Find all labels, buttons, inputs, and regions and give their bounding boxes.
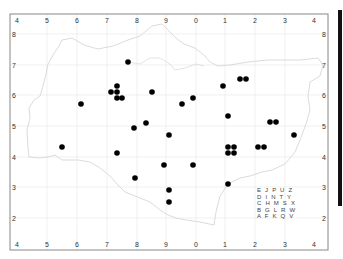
x-tick-label: 8 (135, 241, 139, 248)
x-tick-label: 4 (15, 17, 19, 24)
y-tick-label: 3 (12, 184, 16, 191)
record-dots (59, 59, 297, 205)
record-dot (78, 101, 84, 107)
x-tick-label: 2 (253, 241, 257, 248)
y-tick-label: 3 (322, 184, 326, 191)
record-dot (190, 162, 196, 168)
x-tick-label: 4 (312, 241, 316, 248)
y-tick-label: 6 (12, 92, 16, 99)
record-dot (255, 144, 261, 150)
record-dot (108, 89, 114, 95)
y-tick-label: 4 (12, 154, 16, 161)
y-tick-label: 8 (322, 31, 326, 38)
x-tick-label: 9 (164, 17, 168, 24)
record-dot (243, 76, 249, 82)
legend-row: A F K Q V (257, 213, 294, 219)
y-tick-label: 7 (322, 62, 326, 69)
record-dot (166, 199, 172, 205)
scroll-edge-bar (338, 10, 342, 206)
record-dot (161, 162, 167, 168)
record-dot (179, 101, 185, 107)
record-dot (131, 125, 137, 131)
x-tick-label: 1 (223, 17, 227, 24)
x-tick-label: 4 (15, 241, 19, 248)
x-axis-bottom: 45678901234 (15, 241, 316, 248)
x-tick-label: 7 (105, 17, 109, 24)
legend-row: E J P U Z (257, 187, 293, 193)
x-tick-label: 8 (135, 17, 139, 24)
x-tick-label: 5 (45, 241, 49, 248)
record-dot (149, 89, 155, 95)
record-dot (114, 95, 120, 101)
record-dot (291, 132, 297, 138)
x-tick-label: 1 (223, 241, 227, 248)
record-dot (125, 59, 131, 65)
record-dot (273, 119, 279, 125)
record-dot (166, 132, 172, 138)
tetrad-legend: E J P U ZD I N T YC H M S XB G L R WA F … (257, 187, 296, 219)
x-tick-label: 6 (75, 241, 79, 248)
record-dot (231, 150, 237, 156)
x-tick-label: 3 (283, 241, 287, 248)
y-axis-left: 8765432 (12, 31, 16, 222)
x-tick-label: 0 (194, 17, 198, 24)
record-dot (114, 150, 120, 156)
y-tick-label: 2 (322, 215, 326, 222)
record-dot (114, 83, 120, 89)
record-dot (190, 95, 196, 101)
record-dot (132, 175, 138, 181)
legend-row: B G L R W (257, 207, 296, 213)
y-tick-label: 2 (12, 215, 16, 222)
y-tick-label: 7 (12, 62, 16, 69)
x-tick-label: 3 (283, 17, 287, 24)
record-dot (220, 83, 226, 89)
y-tick-label: 5 (322, 123, 326, 130)
y-axis-right: 8765432 (322, 31, 326, 222)
record-dot (267, 119, 273, 125)
x-tick-label: 0 (194, 241, 198, 248)
distribution-map: 45678901234 45678901234 8765432 8765432 … (0, 0, 343, 259)
record-dot (119, 95, 125, 101)
x-tick-label: 4 (312, 17, 316, 24)
y-tick-label: 8 (12, 31, 16, 38)
record-dot (231, 144, 237, 150)
y-tick-label: 6 (322, 92, 326, 99)
record-dot (225, 144, 231, 150)
record-dot (237, 76, 243, 82)
record-dot (225, 181, 231, 187)
x-tick-label: 5 (45, 17, 49, 24)
y-tick-label: 5 (12, 123, 16, 130)
record-dot (59, 144, 65, 150)
x-tick-label: 9 (164, 241, 168, 248)
legend-row: C H M S X (257, 200, 296, 206)
x-axis-top: 45678901234 (15, 17, 316, 24)
x-tick-label: 7 (105, 241, 109, 248)
record-dot (225, 113, 231, 119)
record-dot (114, 89, 120, 95)
record-dot (261, 144, 267, 150)
legend-row: D I N T Y (257, 194, 292, 200)
x-tick-label: 2 (253, 17, 257, 24)
x-tick-label: 6 (75, 17, 79, 24)
record-dot (143, 120, 149, 126)
y-tick-label: 4 (322, 154, 326, 161)
record-dot (225, 150, 231, 156)
record-dot (166, 187, 172, 193)
